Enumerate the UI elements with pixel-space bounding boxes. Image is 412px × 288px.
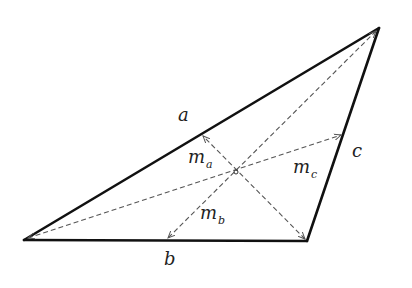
median-label-m-c-sub: c [311,168,317,181]
median-label-m-b: mb [200,204,225,222]
median-label-m-b-main: m [200,202,217,223]
side-label-c: c [352,142,362,160]
side-label-b: b [164,250,176,268]
median-label-m-a-sub: a [206,158,213,171]
triangle-diagram [0,0,412,288]
median-label-m-c: mc [293,158,317,176]
median-label-m-b-sub: b [218,214,225,227]
median-label-m-c-main: m [293,156,310,177]
side-c [307,28,379,241]
median-m-c [28,135,341,238]
side-b [24,240,307,241]
median-label-m-a: ma [188,148,213,166]
centroid-point [234,170,238,174]
side-label-a: a [178,106,189,124]
median-label-m-a-main: m [188,146,205,167]
